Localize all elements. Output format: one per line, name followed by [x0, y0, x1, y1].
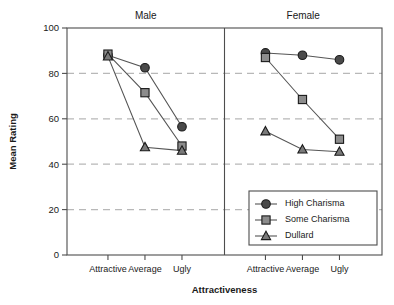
x-axis-title: Attractiveness [192, 284, 257, 295]
x-tick-label-female-average: Average [286, 264, 319, 274]
datapoint-female-some-charisma-ugly [335, 135, 343, 143]
y-axis-title: Mean Rating [7, 113, 18, 170]
legend-marker-high-charisma [262, 200, 271, 209]
datapoint-male-high-charisma-ugly [178, 122, 187, 131]
datapoint-female-dullard-attractive [261, 126, 270, 134]
x-tick-label-male-ugly: Ugly [173, 264, 192, 274]
datapoint-female-some-charisma-average [298, 95, 306, 103]
panel-title-female: Female [287, 10, 321, 21]
x-tick-label-male-average: Average [128, 264, 161, 274]
y-tick-label-80: 80 [48, 68, 59, 79]
datapoint-female-dullard-average [298, 145, 307, 153]
x-tick-label-female-ugly: Ugly [330, 264, 349, 274]
datapoint-female-high-charisma-average [298, 51, 307, 60]
y-tick-label-60: 60 [48, 113, 59, 124]
y-tick-label-0: 0 [54, 249, 59, 260]
datapoint-male-some-charisma-average [141, 89, 149, 97]
x-tick-label-female-attractive: Attractive [247, 264, 285, 274]
chart-canvas: MaleFemale020406080100Mean RatingAttract… [0, 0, 394, 305]
y-tick-label-40: 40 [48, 159, 59, 170]
legend-label-dullard: Dullard [285, 230, 314, 240]
datapoint-male-dullard-average [140, 142, 149, 150]
y-tick-label-20: 20 [48, 204, 59, 215]
datapoint-female-some-charisma-attractive [261, 53, 269, 61]
panel-title-male: Male [135, 10, 157, 21]
datapoint-female-high-charisma-ugly [335, 55, 344, 64]
legend-label-some-charisma: Some Charisma [285, 214, 350, 224]
legend-marker-some-charisma [262, 216, 270, 224]
chart-figure: MaleFemale020406080100Mean RatingAttract… [0, 0, 394, 305]
y-tick-label-100: 100 [43, 22, 59, 33]
legend-label-high-charisma: High Charisma [285, 198, 345, 208]
datapoint-male-high-charisma-average [141, 63, 150, 72]
x-tick-label-male-attractive: Attractive [89, 264, 127, 274]
